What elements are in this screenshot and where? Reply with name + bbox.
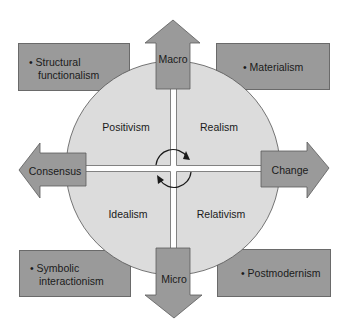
quadrant-label-idealism: Idealism — [108, 208, 147, 220]
quadrant-label-relativism: Relativism — [197, 208, 245, 220]
arrow-label-micro: Micro — [161, 273, 187, 285]
quadrant-label-positivism: Positivism — [102, 121, 149, 133]
arrow-label-consensus: Consensus — [29, 165, 82, 177]
arrow-label-change: Change — [272, 164, 309, 176]
quadrant-label-realism: Realism — [200, 121, 238, 133]
arrow-label-macro: Macro — [158, 53, 187, 65]
